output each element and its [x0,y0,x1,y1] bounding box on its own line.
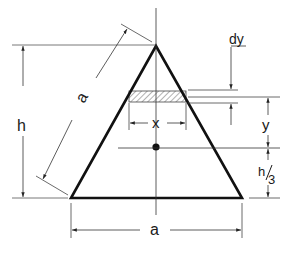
a-slant-label: a [72,89,91,105]
h3-label-den: 3 [268,172,275,187]
triangle-section-diagram: h a a x dy y h 3 [0,0,286,253]
a-slant-dim-bottom [43,120,72,179]
x-label: x [152,114,160,131]
y-label: y [262,116,270,133]
a-ext-bottom [36,176,68,195]
base-a-label: a [150,221,159,238]
a-ext-top [121,24,152,42]
h3-label-num: h [258,164,265,179]
a-slant-dim-top [96,29,127,78]
centroid-dot [152,143,159,150]
hatched-strip [129,91,186,102]
dy-label: dy [229,31,244,47]
h-label: h [17,117,26,134]
